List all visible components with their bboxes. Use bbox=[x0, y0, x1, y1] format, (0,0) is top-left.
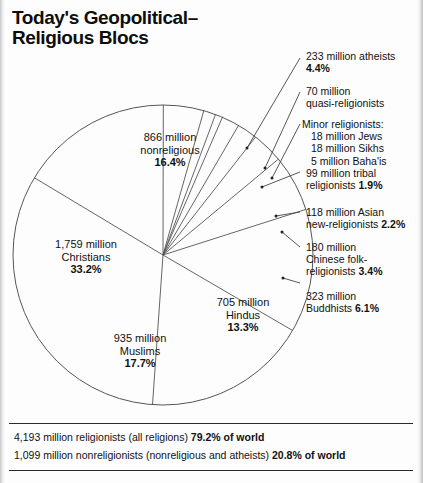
callout-minor-bahais: 5 million Baha'is bbox=[302, 155, 387, 167]
callout-asian-new-religionists: 118 million Asian new-religionists 2.2% bbox=[306, 206, 405, 230]
pie-label-hindus-pct: 13.3% bbox=[227, 321, 258, 333]
pie-label-muslims: 935 million Muslims 17.7% bbox=[96, 332, 184, 370]
callout-chinese-line1: 180 million bbox=[306, 241, 382, 253]
callout-chinese-line2: Chinese folk- bbox=[306, 253, 382, 265]
callout-buddhists-line1: 323 million bbox=[306, 290, 379, 302]
pie-label-nonreligious: 866 million nonreligious 16.4% bbox=[128, 131, 212, 169]
leader-quasi bbox=[265, 92, 300, 168]
pie-label-hindus: 705 million Hindus 13.3% bbox=[200, 296, 286, 334]
footer-line1-text: 4,193 million religionists (all religion… bbox=[14, 431, 191, 443]
leader-chinese bbox=[282, 232, 300, 247]
callout-asian-line2: new-religionists bbox=[306, 218, 381, 230]
chart-page: Today's Geopolitical– Religious Blocs bbox=[0, 0, 423, 483]
pie-label-christians-line1: 1,759 million bbox=[38, 238, 134, 251]
footer-rule-top bbox=[9, 423, 413, 424]
callout-minor-line1: Minor religionists: bbox=[302, 118, 387, 130]
pie-label-hindus-line2: Hindus bbox=[200, 309, 286, 322]
footer-line1-pct: 79.2% of world bbox=[191, 431, 265, 443]
callout-minor-jews: 18 million Jews bbox=[302, 130, 387, 142]
callout-minor-religionists: Minor religionists: 18 million Jews 18 m… bbox=[302, 118, 387, 167]
footer-line2-pct: 20.8% of world bbox=[272, 449, 346, 461]
callout-tribal-line2: religionists bbox=[306, 179, 359, 191]
pie-label-christians-pct: 33.2% bbox=[70, 263, 101, 275]
pie-label-hindus-line1: 705 million bbox=[200, 296, 286, 309]
leader-atheists bbox=[247, 58, 300, 148]
pie-label-christians-line2: Christians bbox=[38, 251, 134, 264]
callout-tribal-religionists: 99 million tribal religionists 1.9% bbox=[306, 167, 382, 191]
footer-line-religionists: 4,193 million religionists (all religion… bbox=[14, 431, 264, 444]
callout-minor-sikhs: 18 million Sikhs bbox=[302, 142, 387, 154]
callout-atheists: 233 million atheists 4.4% bbox=[306, 50, 395, 74]
callout-anchor-dots bbox=[246, 147, 285, 280]
callout-chinese-line3: religionists bbox=[306, 265, 359, 277]
callout-leader-lines bbox=[247, 58, 300, 283]
callout-chinese-folk-religionists: 180 million Chinese folk- religionists 3… bbox=[306, 241, 382, 278]
footer-rule-bottom bbox=[9, 470, 413, 471]
pie-label-nonreligious-line2: nonreligious bbox=[128, 144, 212, 157]
callout-asian-line1: 118 million Asian bbox=[306, 206, 405, 218]
callout-atheists-pct: 4.4% bbox=[306, 62, 330, 74]
callout-quasi-line1: 70 million bbox=[306, 85, 384, 97]
callout-tribal-pct: 1.9% bbox=[359, 179, 383, 191]
callout-quasi-line2: quasi-religionists bbox=[306, 97, 384, 109]
leader-buddhists bbox=[283, 278, 300, 283]
callout-chinese-pct: 3.4% bbox=[359, 265, 383, 277]
callout-buddhists-pct: 6.1% bbox=[355, 302, 379, 314]
divider-muslims-christians bbox=[153, 255, 164, 405]
leader-tribal bbox=[262, 172, 300, 187]
callout-atheists-line1: 233 million atheists bbox=[306, 50, 395, 62]
callout-tribal-line1: 99 million tribal bbox=[306, 167, 382, 179]
callout-quasi-religionists: 70 million quasi-religionists bbox=[306, 85, 384, 109]
callout-buddhists-line2: Buddhists bbox=[306, 302, 355, 314]
divider-chinese-buddhists bbox=[163, 159, 278, 255]
pie-label-muslims-line2: Muslims bbox=[96, 345, 184, 358]
footer-line-nonreligionists: 1,099 million nonreligionists (nonreligi… bbox=[14, 449, 346, 462]
divider-buddhists-hindus bbox=[163, 209, 306, 255]
callout-asian-pct: 2.2% bbox=[381, 218, 405, 230]
pie-label-christians: 1,759 million Christians 33.2% bbox=[38, 238, 134, 276]
pie-label-nonreligious-pct: 16.4% bbox=[154, 156, 185, 168]
callout-buddhists: 323 million Buddhists 6.1% bbox=[306, 290, 379, 314]
footer-line2-text: 1,099 million nonreligionists (nonreligi… bbox=[14, 449, 272, 461]
pie-label-muslims-pct: 17.7% bbox=[124, 357, 155, 369]
pie-label-nonreligious-line1: 866 million bbox=[128, 131, 212, 144]
pie-label-muslims-line1: 935 million bbox=[96, 332, 184, 345]
